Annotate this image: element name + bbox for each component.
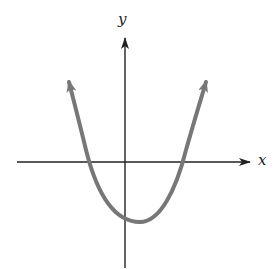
parabola-curve-right-branch (140, 82, 206, 222)
parabola-curve-left-branch (69, 82, 140, 222)
x-axis-label: x (258, 153, 266, 168)
parabola-graph (0, 0, 279, 269)
y-axis-label: y (118, 12, 126, 27)
